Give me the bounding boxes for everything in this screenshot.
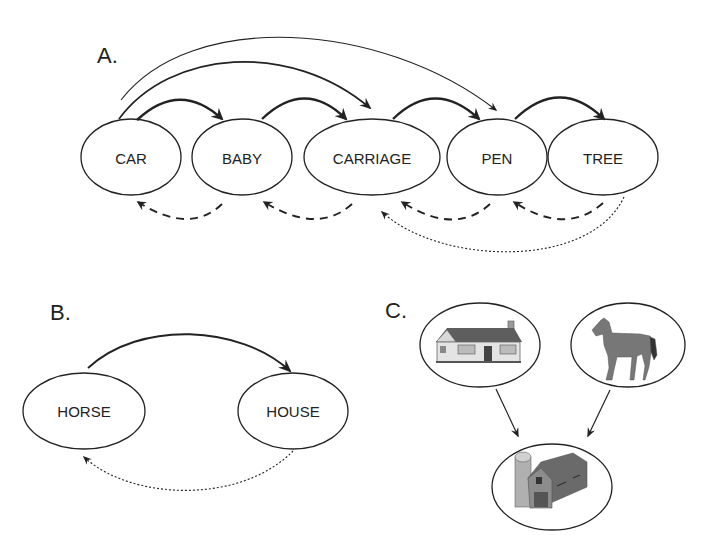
node-horse-label: HORSE bbox=[57, 403, 110, 420]
panel-b-label: B. bbox=[50, 300, 71, 326]
edge-pen-carriage bbox=[402, 202, 490, 220]
house-icon bbox=[436, 321, 522, 363]
panel-a-label: A. bbox=[97, 43, 118, 69]
horse-icon bbox=[592, 318, 657, 380]
edge-house-horse bbox=[84, 451, 293, 490]
edge-car-carriage bbox=[119, 62, 370, 119]
edge-carriage-pen bbox=[393, 99, 479, 120]
node-house-label: HOUSE bbox=[266, 403, 319, 420]
edge-carriage-baby bbox=[264, 202, 352, 219]
node-car-label: CAR bbox=[115, 150, 147, 167]
edge-baby-carriage bbox=[262, 99, 346, 120]
edge-horse-barn bbox=[588, 390, 610, 436]
edge-tree-carriage bbox=[382, 197, 624, 252]
barn-icon bbox=[515, 452, 587, 508]
panel-c-label: C. bbox=[385, 298, 407, 324]
node-pen-label: PEN bbox=[482, 150, 513, 167]
node-tree-label: TREE bbox=[583, 150, 623, 167]
edge-car-baby bbox=[137, 100, 222, 120]
diagram-canvas bbox=[0, 0, 701, 535]
node-baby-label: BABY bbox=[222, 150, 262, 167]
edge-horse-house bbox=[88, 334, 290, 371]
edge-baby-car bbox=[138, 202, 222, 219]
edge-tree-pen bbox=[514, 202, 603, 219]
edge-house-barn bbox=[496, 389, 518, 436]
panel-a bbox=[81, 37, 658, 252]
edge-pen-tree bbox=[515, 98, 604, 120]
node-carriage-label: CARRIAGE bbox=[333, 150, 411, 167]
panel-c bbox=[420, 303, 685, 530]
